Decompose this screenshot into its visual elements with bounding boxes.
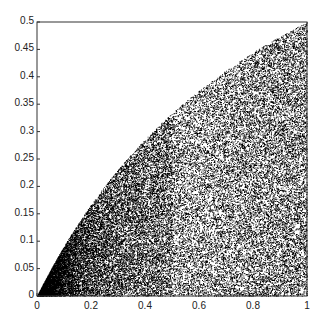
y-tick-label: 0.45: [0, 42, 34, 53]
data-points: [37, 22, 308, 297]
x-tick-label: 1: [295, 300, 319, 311]
y-tick-label: 0.05: [0, 262, 34, 273]
x-tick-label: 0.6: [187, 300, 211, 311]
y-tick-label: 0.25: [0, 152, 34, 163]
y-tick-label: 0.5: [0, 15, 34, 26]
y-tick-label: 0: [0, 289, 34, 300]
y-tick-label: 0.4: [0, 70, 34, 81]
y-tick-label: 0.15: [0, 207, 34, 218]
y-tick-label: 0.1: [0, 234, 34, 245]
x-tick-label: 0.2: [79, 300, 103, 311]
x-tick-label: 0: [25, 300, 49, 311]
x-tick-label: 0.4: [133, 300, 157, 311]
x-tick-label: 0.8: [241, 300, 265, 311]
y-tick-label: 0.35: [0, 97, 34, 108]
y-tick-label: 0.3: [0, 125, 34, 136]
y-tick-label: 0.2: [0, 179, 34, 190]
scatter-plot: [0, 0, 324, 324]
